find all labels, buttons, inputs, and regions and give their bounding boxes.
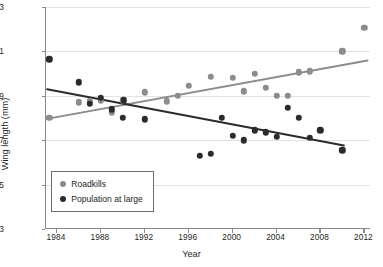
gridline-y-111 — [46, 51, 370, 52]
x-tick-label-2004: 2004 — [256, 233, 296, 241]
data-point-roadkills — [361, 25, 367, 31]
x-tick-label-1996: 1996 — [168, 233, 208, 241]
y-tick-label-113: 113 — [0, 3, 4, 11]
x-axis-title-text: Year — [182, 249, 201, 259]
data-point-roadkills — [273, 93, 279, 99]
x-tick-label-1992: 1992 — [124, 233, 164, 241]
data-point-roadkills — [284, 93, 290, 99]
data-point-population-at-large — [262, 129, 268, 135]
x-tick-label-2012: 2012 — [343, 233, 383, 241]
data-point-population-at-large — [251, 127, 257, 133]
scatter-chart: Wing length (mm) 10310510710911111319841… — [0, 0, 383, 267]
x-axis-title: Year — [0, 249, 383, 259]
data-point-population-at-large — [120, 115, 126, 121]
data-point-roadkills — [46, 115, 52, 121]
legend-item-label: Population at large — [71, 195, 143, 204]
data-point-population-at-large — [218, 115, 224, 121]
data-point-population-at-large — [87, 100, 93, 106]
x-tick-mark-1996 — [188, 229, 189, 233]
data-point-roadkills — [142, 89, 148, 95]
data-point-population-at-large — [142, 116, 148, 122]
data-point-roadkills — [306, 68, 312, 74]
y-axis-title-text: Wing length (mm) — [0, 97, 10, 170]
data-point-roadkills — [207, 74, 213, 80]
data-point-roadkills — [262, 85, 268, 91]
x-tick-mark-2004 — [276, 229, 277, 233]
data-point-population-at-large — [197, 153, 203, 159]
legend-item-population-at-large[interactable]: Population at large — [60, 193, 143, 205]
legend-item-label: Roadkills — [71, 180, 106, 189]
x-tick-mark-1992 — [144, 229, 145, 233]
legend-marker-icon — [60, 196, 66, 202]
data-point-roadkills — [76, 99, 82, 105]
x-tick-mark-2012 — [363, 229, 364, 233]
data-point-roadkills — [186, 83, 192, 89]
data-point-roadkills — [240, 88, 246, 94]
y-tick-mark-103 — [42, 229, 46, 230]
legend-marker-icon — [60, 181, 66, 187]
data-point-population-at-large — [317, 127, 323, 133]
x-tick-mark-1988 — [100, 229, 101, 233]
data-point-population-at-large — [76, 79, 82, 85]
x-tick-label-1984: 1984 — [36, 233, 76, 241]
y-tick-label-107: 107 — [0, 136, 4, 144]
x-tick-mark-2000 — [232, 229, 233, 233]
legend-item-roadkills[interactable]: Roadkills — [60, 178, 143, 190]
y-tick-label-109: 109 — [0, 92, 4, 100]
x-tick-mark-1984 — [56, 229, 57, 233]
data-point-population-at-large — [229, 133, 235, 139]
data-point-population-at-large — [339, 147, 345, 153]
data-point-population-at-large — [284, 105, 290, 111]
y-tick-label-103: 103 — [0, 225, 4, 233]
trendline-roadkills — [46, 59, 369, 120]
data-point-population-at-large — [207, 150, 213, 156]
data-point-roadkills — [295, 69, 301, 75]
chart-legend: RoadkillsPopulation at large — [51, 171, 154, 212]
gridline-y-113 — [46, 7, 370, 8]
data-point-roadkills — [164, 98, 170, 104]
data-point-roadkills — [339, 48, 345, 54]
data-point-population-at-large — [240, 137, 246, 143]
data-point-population-at-large — [295, 115, 301, 121]
data-point-roadkills — [175, 93, 181, 99]
data-point-population-at-large — [273, 134, 279, 140]
data-point-roadkills — [229, 75, 235, 81]
x-tick-label-1988: 1988 — [80, 233, 120, 241]
y-tick-label-105: 105 — [0, 181, 4, 189]
x-tick-label-2000: 2000 — [212, 233, 252, 241]
data-point-roadkills — [251, 70, 257, 76]
x-tick-label-2008: 2008 — [299, 233, 339, 241]
x-tick-mark-2008 — [319, 229, 320, 233]
y-tick-label-111: 111 — [0, 47, 4, 55]
data-point-population-at-large — [46, 56, 52, 62]
